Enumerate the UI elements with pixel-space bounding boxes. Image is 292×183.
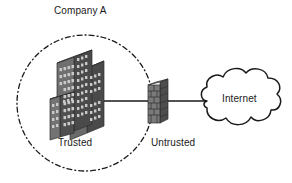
building-left-tower	[50, 92, 74, 140]
firewall-icon	[148, 79, 168, 123]
untrusted-zone-label: Untrusted	[151, 137, 195, 148]
zone-owner-label: Company A	[54, 5, 107, 16]
network-diagram: Company A Trusted Untrusted Internet	[0, 0, 292, 183]
trusted-zone-label: Trusted	[58, 137, 92, 148]
corporate-buildings-icon	[50, 50, 104, 140]
diagram-canvas	[0, 0, 292, 183]
internet-cloud-label: Internet	[222, 93, 257, 104]
